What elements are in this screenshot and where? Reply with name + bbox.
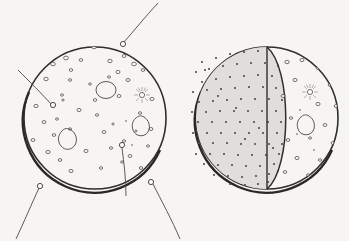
left-globe-limb-heavy <box>23 92 160 193</box>
hemisphere-diagram <box>0 0 349 241</box>
right-mare-east <box>297 115 314 135</box>
right-globe-surface <box>281 58 345 176</box>
right-shaded-region <box>191 47 292 189</box>
right-rayed-crater <box>302 84 318 100</box>
leader-top-marker[interactable] <box>120 41 125 46</box>
leader-bottom-center-marker[interactable] <box>119 142 124 147</box>
figure-root <box>0 0 349 241</box>
leader-bottom-right-marker[interactable] <box>148 179 153 184</box>
leader-bottom-right[interactable] <box>148 179 180 239</box>
leader-bottom-left-marker[interactable] <box>37 183 42 188</box>
leader-left-marker[interactable] <box>50 102 55 107</box>
left-mare-southwest <box>58 129 76 150</box>
left-mare-east <box>132 116 149 136</box>
leader-bottom-left[interactable] <box>16 183 43 239</box>
left-rayed-crater <box>134 87 150 103</box>
right-crater-field <box>281 58 345 176</box>
leader-lines <box>16 3 180 239</box>
left-globe <box>23 45 166 192</box>
right-globe <box>191 47 345 193</box>
left-large-crater <box>96 82 116 99</box>
leader-left[interactable] <box>18 70 56 108</box>
left-crater-field <box>31 45 159 172</box>
left-globe-surface <box>31 45 159 172</box>
leader-top[interactable] <box>120 3 158 47</box>
